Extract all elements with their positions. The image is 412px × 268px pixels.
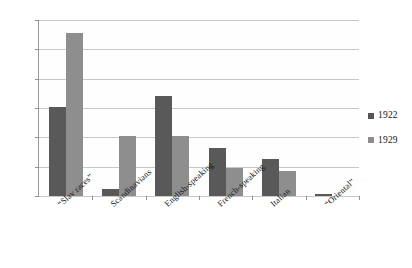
- bar-1922[interactable]: [49, 107, 66, 196]
- x-tick-mark: [306, 196, 307, 200]
- bar-group: [39, 33, 92, 196]
- bar-chart: 0%10%20%30%40%50%60% “Slav races”Scandin…: [0, 0, 412, 268]
- legend-item-1929[interactable]: 1929: [368, 136, 398, 146]
- x-tick-mark: [146, 196, 147, 200]
- y-tick-mark-60: [35, 20, 39, 21]
- bar-1929[interactable]: [66, 33, 83, 196]
- legend-label-1922: 1922: [378, 111, 398, 121]
- x-tick-mark: [359, 196, 360, 200]
- chart-legend: 1922 1929: [368, 111, 398, 160]
- bar-1922[interactable]: [209, 148, 226, 196]
- x-tick-mark: [199, 196, 200, 200]
- y-tick-mark-0: [35, 196, 39, 197]
- legend-swatch-1922-icon: [368, 113, 374, 119]
- legend-label-1929: 1929: [378, 136, 398, 146]
- x-tick-mark: [92, 196, 93, 200]
- bar-1922[interactable]: [155, 96, 172, 196]
- gridline-60: [39, 20, 359, 21]
- legend-item-1922[interactable]: 1922: [368, 111, 398, 121]
- legend-swatch-1929-icon: [368, 137, 374, 143]
- bar-1922[interactable]: [262, 159, 279, 196]
- x-tick-mark: [252, 196, 253, 200]
